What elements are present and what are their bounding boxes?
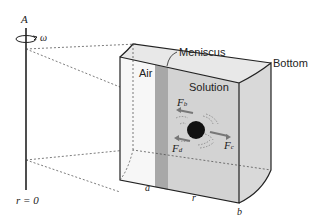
position-b-label: b <box>237 207 242 217</box>
force-d-label: Fd <box>172 143 182 154</box>
meniscus-band <box>155 65 168 190</box>
position-r-label: r <box>192 193 196 203</box>
origin-label: r = 0 <box>16 195 39 206</box>
solution-label: Solution <box>189 82 229 93</box>
position-a-label: a <box>145 183 150 193</box>
bottom-label: Bottom <box>273 58 308 69</box>
particle <box>187 121 205 139</box>
air-label: Air <box>139 68 152 79</box>
meniscus-label: Meniscus <box>179 47 225 58</box>
centrifuge-cell-diagram <box>0 0 324 220</box>
axis-label: A <box>21 14 28 25</box>
force-b-label: Fb <box>177 97 187 108</box>
omega-label: ω <box>40 33 47 43</box>
cell-bottom-face <box>239 63 271 203</box>
force-c-label: Fc <box>224 140 234 151</box>
